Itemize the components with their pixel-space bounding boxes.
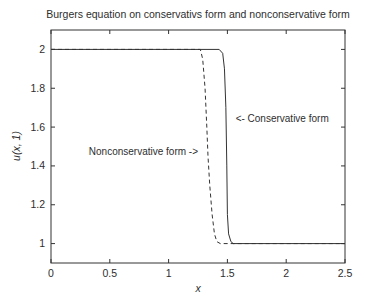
annotation-conservative-form: <- Conservative form [236,113,329,124]
y-tick-label: 1.6 [30,121,45,133]
y-tick-label: 1.8 [30,82,45,94]
x-axis-label: x [195,282,200,294]
figure: Burgers equation on conservativs form an… [0,0,365,306]
y-tick-label: 2 [39,43,45,55]
x-tick-label: 2.5 [338,267,353,279]
y-tick-label: 1.4 [30,159,45,171]
annotation-nonconservative-form: Nonconservative form -> [89,146,198,157]
x-tick-label: 1.5 [220,267,235,279]
x-tick-label: 0 [48,267,54,279]
y-tick-label: 1.2 [30,198,45,210]
x-tick-label: 1 [166,267,172,279]
x-tick-label: 0.5 [102,267,117,279]
x-tick-label: 2 [283,267,289,279]
y-tick-label: 1 [39,237,45,249]
y-axis-label: u(x, 1) [10,131,22,161]
